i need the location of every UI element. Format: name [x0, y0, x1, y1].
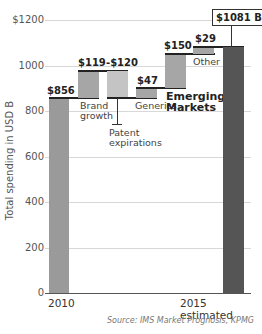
bar-generics: [136, 88, 157, 98]
ytick-800: 800: [25, 106, 44, 116]
total-callout-line: [231, 25, 232, 47]
category-label-emerging-markets: Emerging Markets: [166, 91, 225, 113]
patent-leader-foot: [112, 124, 122, 125]
value-label-brand-growth: $119: [78, 57, 106, 68]
x-axis-baseline: [45, 293, 251, 294]
bar-other: [193, 47, 214, 54]
total-callout: $1081 B: [212, 9, 262, 26]
value-label-generics: $47: [137, 75, 158, 86]
value-label-other: $29: [195, 33, 216, 44]
ytick-1200: $1200: [12, 15, 44, 25]
value-label-emerging-markets: $150: [164, 40, 192, 51]
bar-2015-estimated: [223, 47, 244, 293]
bar-brand-growth: [78, 71, 99, 98]
ytick-600: 600: [25, 152, 44, 162]
source-note: Source: IMS Market Prognosis, KPMG: [107, 316, 254, 325]
ytick-200: 200: [25, 243, 44, 253]
gridline-200: [45, 248, 251, 249]
value-label-patent-expirations: -$120: [106, 57, 138, 68]
gridline-1000: [45, 66, 251, 67]
y-axis-title: Total spending in USD B: [4, 86, 15, 236]
bar-2010: [49, 98, 69, 293]
category-label-patent-expirations: Patent expirations: [109, 128, 162, 148]
category-label-brand-growth: Brand growth: [80, 101, 113, 121]
ytick-0: 0: [38, 288, 44, 298]
category-label-other: Other: [193, 57, 220, 67]
gridline-400: [45, 202, 251, 203]
patent-leader-line: [117, 98, 118, 125]
waterfall-chart: $1200 1000 800 600 400 200 0 Total spend…: [0, 0, 262, 334]
ytick-1000: 1000: [19, 61, 44, 71]
gridline-600: [45, 157, 251, 158]
bar-emerging-markets: [165, 54, 186, 88]
x-label-2010: 2010: [48, 297, 75, 309]
bar-patent-expirations: [107, 71, 128, 98]
value-label-2010: $856: [47, 85, 75, 96]
ytick-400: 400: [25, 197, 44, 207]
